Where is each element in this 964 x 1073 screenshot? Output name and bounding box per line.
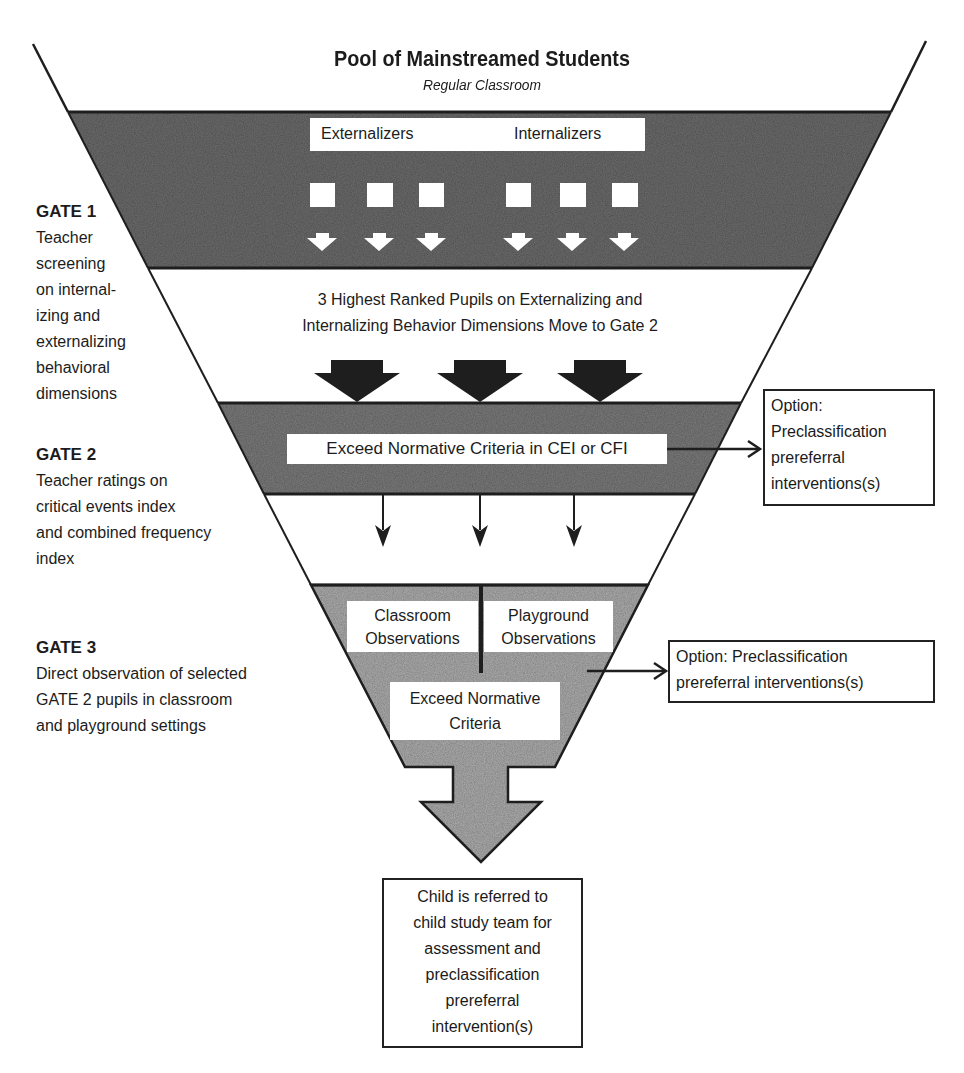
- internalizers-label: Internalizers: [514, 124, 601, 144]
- classroom-line1: Classroom: [347, 604, 478, 627]
- gate2-description: Teacher ratings on critical events index…: [36, 468, 211, 572]
- gate3-desc-line: Direct observation of selected: [36, 661, 247, 687]
- gate1-desc-line: izing and: [36, 303, 126, 329]
- transition1-line2: Internalizing Behavior Dimensions Move t…: [200, 313, 760, 339]
- big-black-arrows: [314, 360, 643, 402]
- gate3-desc-line: and playground settings: [36, 713, 247, 739]
- gate3-criteria-line2: Criteria: [390, 711, 560, 736]
- classroom-observations-label: Classroom Observations: [347, 604, 478, 650]
- gate3-criteria-line1: Exceed Normative: [390, 686, 560, 711]
- gate3-heading: GATE 3: [36, 638, 96, 658]
- option2-line: Option: Preclassification: [676, 644, 927, 670]
- transition1-line1: 3 Highest Ranked Pupils on Externalizing…: [200, 287, 760, 313]
- gate2-criteria-label: Exceed Normative Criteria in CEI or CFI: [287, 439, 667, 459]
- outcome-line: preclassification: [390, 962, 575, 988]
- gate2-desc-line: index: [36, 546, 211, 572]
- gate1-desc-line: screening: [36, 251, 126, 277]
- outcome-line: Child is referred to: [390, 884, 575, 910]
- option-box-gate3: Option: Preclassification prereferral in…: [668, 640, 935, 703]
- gate2-desc-line: critical events index: [36, 494, 211, 520]
- gate2-desc-line: and combined frequency: [36, 520, 211, 546]
- gate1-desc-line: Teacher: [36, 225, 126, 251]
- option-box-gate2: Option: Preclassification prereferral in…: [763, 389, 935, 506]
- option1-line: Preclassification: [771, 419, 927, 445]
- gate3-criteria-label: Exceed Normative Criteria: [390, 686, 560, 736]
- option2-line: prereferral interventions(s): [676, 670, 927, 696]
- option1-line: Option:: [771, 393, 927, 419]
- outcome-line: child study team for: [390, 910, 575, 936]
- playground-observations-label: Playground Observations: [484, 604, 613, 650]
- gate1-desc-line: behavioral: [36, 355, 126, 381]
- gate2-desc-line: Teacher ratings on: [36, 468, 211, 494]
- gate3-description: Direct observation of selected GATE 2 pu…: [36, 661, 247, 739]
- externalizers-label: Externalizers: [321, 124, 413, 144]
- gate1-desc-line: on internal-: [36, 277, 126, 303]
- option1-line: prereferral: [771, 445, 927, 471]
- outcome-box: Child is referred to child study team fo…: [382, 878, 583, 1048]
- gate1-desc-line: dimensions: [36, 381, 126, 407]
- playground-line2: Observations: [484, 627, 613, 650]
- option1-line: interventions(s): [771, 471, 927, 497]
- outcome-line: prereferral: [390, 988, 575, 1014]
- diagram-title: Pool of Mainstreamed Students: [48, 46, 916, 72]
- classroom-line2: Observations: [347, 627, 478, 650]
- gate2-thin-arrows: [375, 494, 582, 547]
- gate2-heading: GATE 2: [36, 445, 96, 465]
- gate1-heading: GATE 1: [36, 202, 96, 222]
- outcome-line: intervention(s): [390, 1014, 575, 1040]
- outcome-line: assessment and: [390, 936, 575, 962]
- gate1-description: Teacher screening on internal- izing and…: [36, 225, 126, 407]
- gate3-desc-line: GATE 2 pupils in classroom: [36, 687, 247, 713]
- gate1-desc-line: externalizing: [36, 329, 126, 355]
- transition1-text: 3 Highest Ranked Pupils on Externalizing…: [200, 287, 760, 339]
- playground-line1: Playground: [484, 604, 613, 627]
- diagram-subtitle: Regular Classroom: [39, 76, 926, 93]
